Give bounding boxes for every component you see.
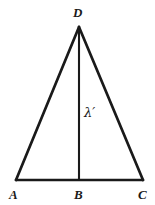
geometry-figure: D A B C λ′ [0, 0, 155, 205]
triangle-diagram-canvas [0, 0, 155, 205]
vertex-label-a: A [9, 188, 18, 201]
vertex-label-b: B [74, 188, 83, 201]
vertex-label-c: C [138, 188, 147, 201]
vertex-label-d: D [73, 6, 82, 19]
altitude-length-label: λ′ [84, 106, 95, 119]
